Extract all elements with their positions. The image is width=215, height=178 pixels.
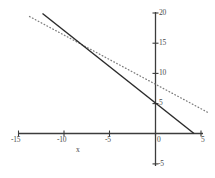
chart-svg	[0, 0, 215, 178]
series-solid-line	[43, 14, 195, 134]
y-tick-label-20: 20	[159, 9, 166, 17]
series-dotted-line	[30, 17, 209, 113]
x-tick-label-neg15: -15	[11, 136, 20, 144]
x-tick-label-0: 0	[157, 136, 161, 144]
chart-canvas: -15 -10 -5 0 5 20 15 10 5 -5 x	[0, 0, 215, 178]
x-tick-label-5: 5	[201, 136, 205, 144]
y-tick-label-neg5: -5	[158, 160, 164, 168]
x-tick-label-neg5: -5	[105, 136, 111, 144]
x-tick-label-neg10: -10	[57, 136, 66, 144]
y-tick-label-5: 5	[159, 99, 163, 107]
y-tick-label-10: 10	[159, 69, 166, 77]
x-axis-title: x	[76, 145, 80, 154]
y-tick-label-15: 15	[159, 39, 166, 47]
